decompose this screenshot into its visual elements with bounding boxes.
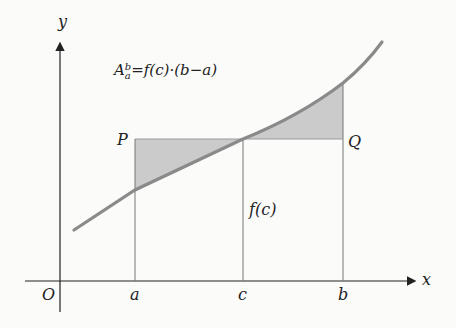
point-q-label: Q <box>348 134 361 150</box>
x-axis-label: x <box>422 272 431 288</box>
tick-c-label: c <box>238 287 247 303</box>
shaded-region-right <box>243 83 343 139</box>
tick-b-label: b <box>338 287 348 303</box>
point-p-label: P <box>117 132 128 148</box>
origin-label: O <box>42 287 55 303</box>
area-formula: Aba=f(c)·(b−a) <box>114 62 217 80</box>
fc-label: f(c) <box>249 202 276 218</box>
tick-a-label: a <box>130 287 140 303</box>
mean-value-diagram: Aba=f(c)·(b−a) y x O P Q a c b f(c) <box>0 0 456 328</box>
diagram-canvas <box>0 0 456 328</box>
y-axis-label: y <box>58 14 67 30</box>
